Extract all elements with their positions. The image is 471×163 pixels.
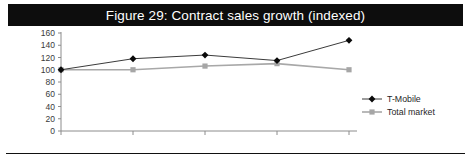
y-tick-label: 80 xyxy=(46,77,56,87)
data-point-marker xyxy=(346,67,351,72)
data-point-marker xyxy=(130,55,137,62)
y-tick-label: 0 xyxy=(50,126,55,136)
chart-series-group xyxy=(58,37,353,73)
data-point-marker xyxy=(369,109,374,114)
y-tick-label: 60 xyxy=(46,89,56,99)
y-tick-label: 20 xyxy=(46,114,56,124)
figure-title-band: Figure 29: Contract sales growth (indexe… xyxy=(8,4,463,26)
y-tick-label: 160 xyxy=(41,28,55,38)
y-tick-label: 140 xyxy=(41,40,55,50)
chart-plot-area: 020406080100120140160 Q1 2008Q2 2008Q3 2… xyxy=(0,26,471,138)
figure-container: Figure 29: Contract sales growth (indexe… xyxy=(0,0,471,163)
y-tick-label: 40 xyxy=(46,102,56,112)
bottom-divider xyxy=(6,153,465,155)
y-tick-label: 100 xyxy=(41,65,55,75)
data-point-marker xyxy=(202,52,209,59)
data-point-marker xyxy=(346,37,353,44)
data-point-marker xyxy=(369,96,376,103)
x-axis: Q1 2008Q2 2008Q3 2008Q4 2008Q1 2009 xyxy=(45,131,366,138)
legend-label: T-Mobile xyxy=(387,94,421,104)
chart-svg: 020406080100120140160 Q1 2008Q2 2008Q3 2… xyxy=(0,26,471,138)
y-tick-label: 120 xyxy=(41,53,55,63)
figure-title: Figure 29: Contract sales growth (indexe… xyxy=(106,8,365,23)
y-axis: 020406080100120140160 xyxy=(41,28,61,136)
data-point-marker xyxy=(130,67,135,72)
legend-label: Total market xyxy=(387,107,435,117)
data-point-marker xyxy=(202,63,207,68)
chart-legend: T-MobileTotal market xyxy=(362,94,435,117)
